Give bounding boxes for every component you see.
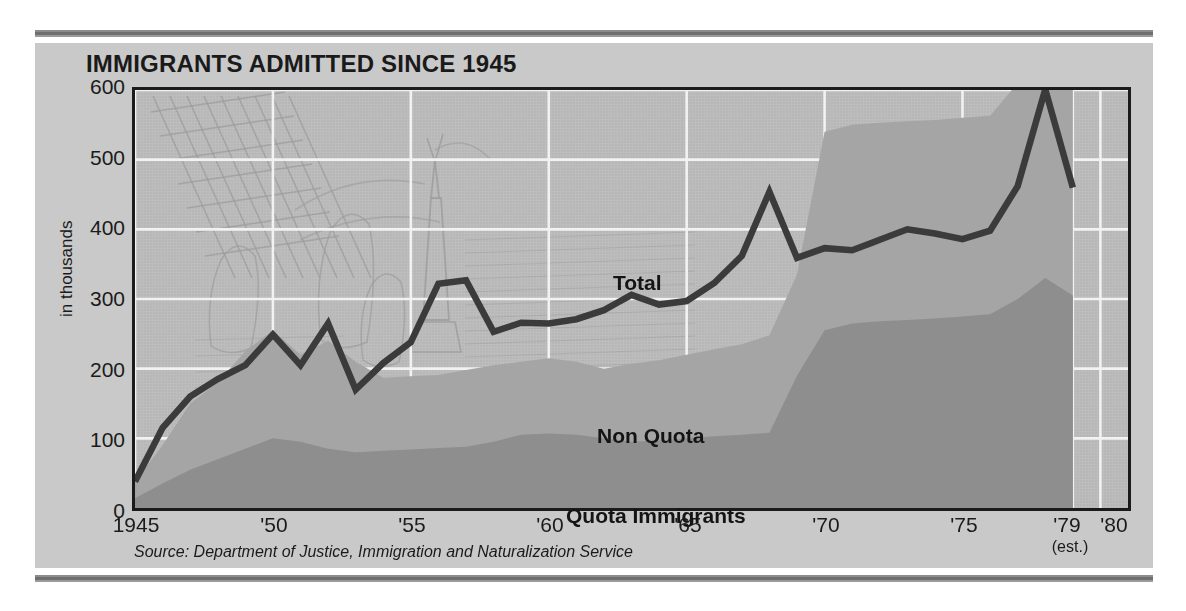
x-tick-est-note: (est.) xyxy=(1052,538,1088,556)
y-tick-100: 100 xyxy=(63,428,125,452)
series-label-total: Total xyxy=(613,271,662,295)
x-tick-80: '80 xyxy=(1100,513,1127,537)
x-tick-60: '60 xyxy=(536,513,563,537)
y-axis: in thousands 600 500 400 300 200 100 0 xyxy=(59,87,125,511)
y-tick-200: 200 xyxy=(63,358,125,382)
x-tick-50: '50 xyxy=(260,513,287,537)
page-title: IMMIGRANTS ADMITTED SINCE 1945 xyxy=(86,50,517,78)
series-label-quota: Quota Immigrants xyxy=(566,504,746,528)
series-label-non-quota: Non Quota xyxy=(597,424,704,448)
y-tick-400: 400 xyxy=(63,216,125,240)
y-tick-600: 600 xyxy=(63,75,125,99)
bottom-rule xyxy=(35,575,1153,582)
x-tick-79: '79 xyxy=(1053,513,1080,537)
chart-card: IMMIGRANTS ADMITTED SINCE 1945 in thousa… xyxy=(35,43,1153,568)
x-tick-75: '75 xyxy=(950,513,977,537)
chart-screenshot: IMMIGRANTS ADMITTED SINCE 1945 in thousa… xyxy=(0,0,1186,611)
y-tick-500: 500 xyxy=(63,146,125,170)
x-tick-70: '70 xyxy=(812,513,839,537)
x-tick-55: '55 xyxy=(398,513,425,537)
top-rule xyxy=(35,30,1153,37)
source-note: Source: Department of Justice, Immigrati… xyxy=(134,543,633,561)
y-tick-300: 300 xyxy=(63,287,125,311)
x-tick-1945: 1945 xyxy=(113,513,160,537)
